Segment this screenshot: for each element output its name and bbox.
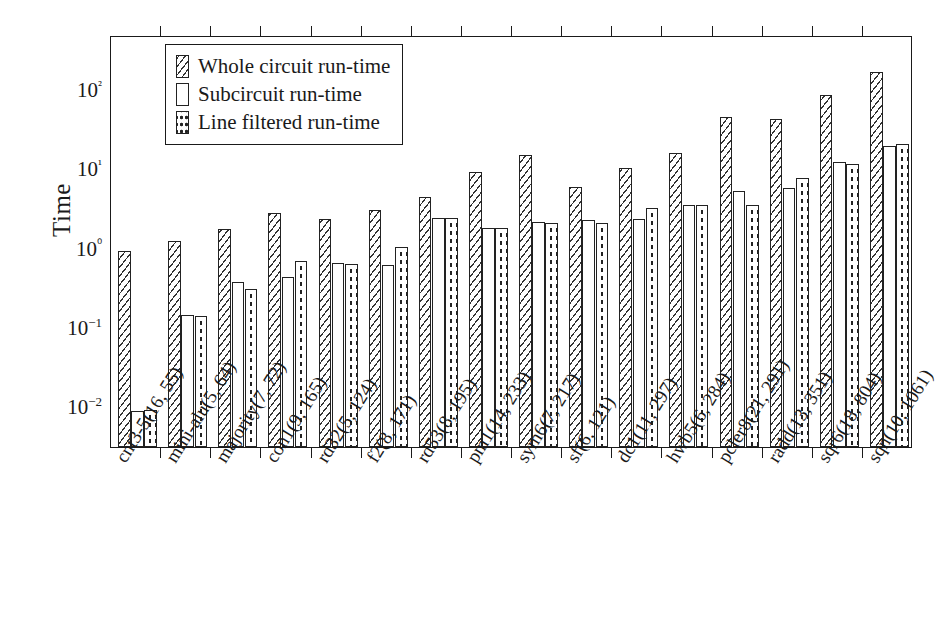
y-tick-label: 10¹ — [36, 159, 102, 180]
x-tick-top — [461, 26, 462, 36]
legend-label: Line filtered run-time — [198, 112, 380, 133]
legend-swatch-icon — [176, 55, 189, 78]
x-tick — [712, 448, 713, 458]
x-tick-top — [661, 26, 662, 36]
x-tick-top — [361, 26, 362, 36]
legend-item: Subcircuit run-time — [176, 80, 390, 108]
x-tick-top — [160, 26, 161, 36]
legend-swatch-icon — [176, 111, 189, 134]
x-tick-top — [311, 26, 312, 36]
legend-swatch-icon — [176, 83, 189, 106]
x-tick-top — [762, 26, 763, 36]
bar — [268, 213, 281, 447]
x-tick-top — [561, 26, 562, 36]
legend-item: Line filtered run-time — [176, 108, 390, 136]
legend-item: Whole circuit run-time — [176, 52, 390, 80]
x-tick — [762, 448, 763, 458]
legend-label: Subcircuit run-time — [198, 84, 362, 105]
y-tick-label: 10² — [36, 80, 102, 101]
x-tick-top — [511, 26, 512, 36]
x-tick-top — [862, 26, 863, 36]
chart-legend: Whole circuit run-timeSubcircuit run-tim… — [165, 44, 403, 145]
bar — [669, 153, 682, 447]
bar — [619, 168, 632, 447]
chart-figure: Time 10−210−110⁰10¹10² cnt3-5(16, 55)min… — [0, 0, 936, 633]
x-tick-top — [712, 26, 713, 36]
x-tick-top — [260, 26, 261, 36]
bar — [369, 210, 382, 447]
bar — [168, 241, 181, 447]
bar — [319, 219, 332, 447]
y-tick-label: 10−1 — [36, 318, 102, 339]
bar — [883, 146, 896, 447]
y-tick-label: 10−2 — [36, 397, 102, 418]
bar — [569, 187, 582, 447]
bar — [218, 229, 231, 447]
bar — [118, 251, 131, 448]
legend-label: Whole circuit run-time — [198, 56, 390, 77]
x-tick-top — [812, 26, 813, 36]
bar — [469, 172, 482, 447]
x-tick — [411, 448, 412, 458]
x-tick — [361, 448, 362, 458]
x-tick-top — [411, 26, 412, 36]
bar — [419, 197, 432, 447]
x-tick-top — [611, 26, 612, 36]
x-tick — [812, 448, 813, 458]
bar — [519, 155, 532, 447]
x-tick-top — [210, 26, 211, 36]
y-tick-label: 10⁰ — [36, 239, 102, 260]
x-tick — [311, 448, 312, 458]
